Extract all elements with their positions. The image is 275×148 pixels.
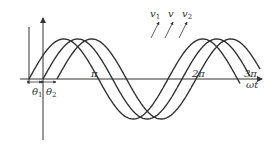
theta2-label: θ2: [46, 86, 57, 99]
tick-3pi: 3π: [244, 68, 257, 79]
v2-label: v2: [182, 8, 192, 21]
v1-label: v1: [150, 8, 160, 21]
x-axis-label: ωt: [246, 79, 259, 90]
v2-pointer: [179, 22, 187, 38]
v1-pointer: [151, 22, 159, 38]
v-label: v: [168, 8, 174, 19]
phase-diagram: θ1 θ2 π 2π 3π ωt v1 v v2: [0, 0, 275, 148]
v-pointer: [165, 22, 173, 38]
tick-pi: π: [90, 68, 98, 79]
tick-2pi: 2π: [191, 68, 205, 79]
theta1-label: θ1: [32, 86, 43, 99]
